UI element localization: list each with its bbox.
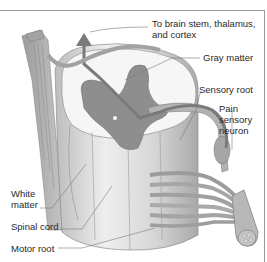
nerve-cross-section: [238, 230, 256, 246]
label-spinal-cord: Spinal cord: [11, 221, 59, 232]
label-brain-line2: and cortex: [152, 29, 196, 40]
label-motor-root: Motor root: [11, 243, 54, 254]
label-gray-matter: Gray matter: [203, 52, 253, 63]
neuron-cell-body: [112, 115, 117, 120]
label-white-line1: White: [11, 188, 35, 199]
leader-brain: [90, 27, 148, 32]
label-sensory-root: Sensory root: [199, 84, 253, 95]
label-pain-line2: sensory: [219, 114, 252, 125]
spinal-nerve: [232, 190, 258, 246]
upward-arrow-icon: [76, 33, 92, 46]
label-pain-line3: neuron: [219, 125, 249, 136]
label-brain-line1: To brain stem, thalamus,: [152, 18, 256, 29]
label-pain-line1: Pain: [219, 103, 238, 114]
label-white-line2: matter: [11, 199, 38, 210]
